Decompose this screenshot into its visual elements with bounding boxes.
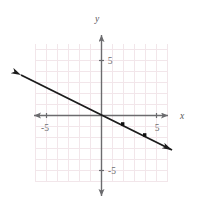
x-tick-label-5: 5 (155, 123, 160, 133)
data-point (121, 122, 124, 125)
data-point (143, 133, 146, 136)
coordinate-plane: y x 5 -5 -5 5 (0, 0, 206, 212)
x-tick-label-neg5: -5 (41, 123, 49, 133)
graph-figure: y x 5 -5 -5 5 (0, 0, 206, 212)
y-tick-label-neg5: -5 (108, 166, 116, 176)
y-tick-label-5: 5 (108, 56, 113, 66)
plotted-line (21, 75, 172, 150)
x-axis-label: x (179, 111, 185, 121)
y-axis-label: y (94, 14, 100, 24)
